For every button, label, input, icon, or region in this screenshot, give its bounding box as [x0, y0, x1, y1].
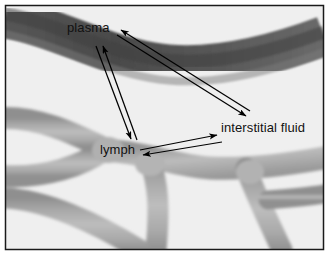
label-plasma: plasma — [67, 21, 110, 35]
label-interstitial-fluid: interstitial fluid — [221, 121, 305, 135]
label-lymph: lymph — [100, 143, 135, 157]
fluid-compartments-figure: plasma lymph interstitial fluid — [0, 0, 329, 255]
